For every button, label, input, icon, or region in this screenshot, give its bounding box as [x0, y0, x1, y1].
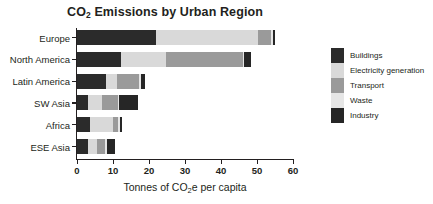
bar-segment	[244, 52, 250, 67]
chart-title: CO2 Emissions by Urban Region	[0, 5, 330, 19]
bar-segment	[141, 74, 144, 89]
x-axis-tick	[257, 159, 258, 164]
x-axis-title: Tonnes of CO2e per capita	[77, 181, 293, 193]
legend-swatch	[331, 78, 344, 93]
bar-segment	[88, 139, 97, 154]
y-axis-label: SW Asia	[34, 97, 70, 108]
legend-item-label: Transport	[350, 81, 384, 90]
legend-swatch	[331, 93, 344, 108]
legend-item[interactable]: Buildings	[350, 48, 424, 63]
bar-row: SW Asia	[77, 95, 293, 110]
x-axis-title-pre: Tonnes of CO	[123, 181, 187, 193]
x-axis-tick-label: 60	[288, 165, 299, 176]
bar-row: Latin America	[77, 74, 293, 89]
legend-item-label: Waste	[350, 96, 372, 105]
y-axis-label: North America	[10, 54, 70, 65]
x-axis-tick	[185, 159, 186, 164]
bar-segment	[121, 52, 166, 67]
bar-segment	[117, 74, 139, 89]
bar-segment	[258, 30, 271, 45]
bar-segment	[119, 95, 138, 110]
legend-item-label: Electricity generation	[350, 66, 424, 75]
x-axis-tick	[149, 159, 150, 164]
legend-swatch	[331, 108, 344, 123]
y-axis-label: ESE Asia	[30, 141, 70, 152]
bar-row: Europe	[77, 30, 293, 45]
legend-item[interactable]: Industry	[350, 108, 424, 123]
plot-area: EuropeNorth AmericaLatin AmericaSW AsiaA…	[77, 28, 293, 157]
legend-swatch-strip	[331, 48, 344, 123]
x-axis-tick-label: 30	[180, 165, 191, 176]
x-axis-tick-label: 50	[252, 165, 263, 176]
bar-segment	[77, 52, 121, 67]
bar-segment	[77, 74, 106, 89]
x-axis-tick	[293, 159, 294, 164]
bar-row: North America	[77, 52, 293, 67]
y-axis-label: Latin America	[12, 76, 70, 87]
x-axis-tick-label: 10	[108, 165, 119, 176]
legend-swatch	[331, 63, 344, 78]
legend-item-label: Industry	[350, 111, 378, 120]
x-axis-tick	[77, 159, 78, 164]
bar-segment	[102, 95, 118, 110]
bar-segment	[273, 30, 276, 45]
y-axis-label: Africa	[46, 119, 70, 130]
y-axis-label: Europe	[39, 32, 70, 43]
chart-title-rest: Emissions by Urban Region	[91, 5, 263, 19]
legend-item[interactable]: Electricity generation	[350, 63, 424, 78]
legend-item-label: Buildings	[350, 51, 382, 60]
bar-segment	[77, 95, 88, 110]
bar-segment	[107, 139, 116, 154]
bar-segment	[97, 139, 106, 154]
chart-title-main: CO	[67, 5, 86, 19]
legend-swatch	[331, 48, 344, 63]
legend-item[interactable]: Transport	[350, 78, 424, 93]
legend-item[interactable]: Waste	[350, 93, 424, 108]
bar-segment	[77, 117, 90, 132]
bar-segment	[156, 30, 258, 45]
x-axis-tick-label: 0	[74, 165, 79, 176]
bar-row: Africa	[77, 117, 293, 132]
chart-container: CO2 Emissions by Urban Region EuropeNort…	[0, 0, 433, 204]
x-axis-tick-label: 20	[144, 165, 155, 176]
bar-segment	[166, 52, 243, 67]
bar-segment	[90, 117, 113, 132]
x-axis-tick-label: 40	[216, 165, 227, 176]
bar-segment	[77, 30, 156, 45]
chart-title-subscript: 2	[86, 10, 91, 20]
bar-segment	[120, 117, 123, 132]
bar-segment	[88, 95, 102, 110]
x-axis-tick	[113, 159, 114, 164]
legend-label-list: BuildingsElectricity generationTransport…	[350, 48, 424, 123]
x-axis-tick	[221, 159, 222, 164]
bar-row: ESE Asia	[77, 139, 293, 154]
x-axis-title-subscript: 2	[188, 186, 192, 195]
bar-segment	[77, 139, 88, 154]
bar-segment	[106, 74, 118, 89]
x-axis-title-post: e per capita	[192, 181, 247, 193]
